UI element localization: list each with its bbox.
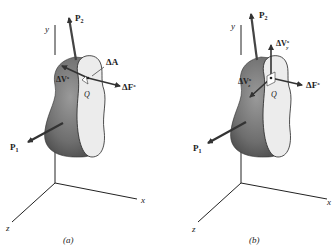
normal-label: ΔFx xyxy=(122,82,136,92)
x-axis xyxy=(241,183,327,199)
cut-face-a xyxy=(77,56,105,157)
point-q-label: Q xyxy=(271,90,277,99)
panel-a: y x z P2 P1 ΔA ΔVx ΔFx Q (a) xyxy=(5,13,145,245)
point-q-label: Q xyxy=(84,90,90,99)
point-q-dot xyxy=(270,77,273,80)
x-axis xyxy=(55,183,137,199)
panel-b: y x z P2 P1 ΔVxy ΔVxz ΔFx Q (b) xyxy=(191,10,331,245)
x-axis-label: x xyxy=(326,197,331,207)
area-label: ΔA xyxy=(106,57,119,67)
force-p2-label: P2 xyxy=(75,13,84,24)
y-axis-label: y xyxy=(230,21,235,31)
z-axis-label: z xyxy=(191,224,196,234)
cut-face-b xyxy=(263,56,291,157)
x-axis-label: x xyxy=(140,195,145,205)
force-p2-arrow xyxy=(69,18,76,60)
z-axis-label: z xyxy=(5,223,10,233)
force-p1-label: P1 xyxy=(193,143,202,154)
y-axis-label: y xyxy=(44,24,49,34)
shear-y-label: ΔVxy xyxy=(276,39,290,50)
force-p1-label: P1 xyxy=(10,142,19,153)
force-p2-label: P2 xyxy=(259,10,268,21)
caption-a: (a) xyxy=(63,235,74,245)
z-axis xyxy=(198,183,241,222)
force-p2-arrow xyxy=(251,14,257,60)
normal-label: ΔFx xyxy=(306,80,320,90)
caption-b: (b) xyxy=(249,235,260,245)
figure: y x z P2 P1 ΔA ΔVx ΔFx Q (a) xyxy=(0,0,335,249)
point-q-dot xyxy=(87,77,90,80)
z-axis xyxy=(12,183,55,222)
